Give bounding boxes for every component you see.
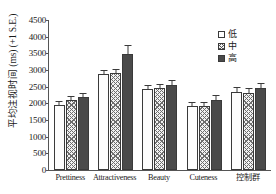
error-bar-cap [213,95,220,96]
error-bar [59,101,60,105]
bar-group [97,20,135,170]
error-bar-cap [156,84,163,85]
error-bar [171,80,172,85]
legend-item[interactable]: 中 [218,40,264,52]
bar[interactable] [122,54,133,170]
x-axis-tick-label: 控制群 [226,173,270,191]
legend: 低中高 [218,28,264,64]
y-axis-tick-label: 3500 [12,49,46,58]
error-bar-cap [56,101,63,102]
error-bar-cap [80,93,87,94]
error-bar-cap [233,87,240,88]
y-axis-tick-mark [46,70,49,71]
error-bar-cap [100,70,107,71]
legend-swatch-icon [218,31,225,38]
bar-column [166,20,177,170]
error-bar [147,85,148,89]
error-bar-cap [257,83,264,84]
x-axis-tick-labels: PrettinessAttractivenessBeautyCuteness控制… [48,173,270,191]
error-bar [204,102,205,106]
legend-item-label: 低 [228,29,237,39]
error-bar-cap [245,88,252,89]
bar-column [78,20,89,170]
error-bar [127,45,128,54]
legend-item-label: 中 [228,41,237,51]
y-axis-tick-label: 4500 [12,16,46,25]
error-bar-cap [144,85,151,86]
error-bar-cap [189,102,196,103]
error-bar-cap [124,45,131,46]
bar[interactable] [154,88,165,170]
y-axis-tick-mark [46,37,49,38]
y-axis-tick-mark [46,20,49,21]
y-axis-tick-mark [46,87,49,88]
y-axis-tick-mark [46,153,49,154]
error-bar [236,87,237,91]
bar[interactable] [199,106,210,170]
error-bar [103,70,104,74]
y-axis-tick-label: 1000 [12,133,46,142]
legend-swatch-icon [218,43,225,50]
y-axis-tick-label: 0 [12,166,46,175]
bar[interactable] [211,100,222,170]
y-axis-tick-mark [46,53,49,54]
bar[interactable] [54,105,65,170]
bar[interactable] [142,89,153,170]
x-axis-tick-label: Cuteness [181,173,225,191]
bar-column [187,20,198,170]
bar[interactable] [98,74,109,170]
x-axis-tick-label: Prettiness [48,173,92,191]
bar[interactable] [187,106,198,170]
bar-chart: 平均注视时间 (ms) (+1 S.E.) 450040003500300025… [0,0,276,194]
bar[interactable] [243,93,254,170]
bar-column [122,20,133,170]
error-bar [159,84,160,88]
bar-column [110,20,121,170]
error-bar-cap [112,69,119,70]
y-axis-tick-mark [46,103,49,104]
bar[interactable] [166,85,177,170]
error-bar-cap [201,102,208,103]
legend-swatch-icon [218,55,225,62]
bar[interactable] [255,88,266,170]
error-bar-cap [68,96,75,97]
y-axis-tick-mark [46,137,49,138]
y-axis-tick-label: 4000 [12,33,46,42]
error-bar [71,96,72,100]
y-axis-tick-label: 2500 [12,83,46,92]
legend-item[interactable]: 低 [218,28,264,40]
bar[interactable] [66,100,77,170]
bar-group [141,20,179,170]
y-axis-tick-label: 2000 [12,99,46,108]
legend-item[interactable]: 高 [218,52,264,64]
error-bar [260,83,261,88]
bar[interactable] [231,92,242,170]
y-axis-tick-label: 500 [12,149,46,158]
bar-column [54,20,65,170]
y-axis-tick-label: 3000 [12,66,46,75]
bar-column [154,20,165,170]
legend-item-label: 高 [228,53,237,63]
error-bar-cap [168,80,175,81]
bar[interactable] [110,73,121,170]
bar[interactable] [78,97,89,170]
y-axis-tick-mark [46,170,49,171]
x-axis-tick-label: Beauty [137,173,181,191]
bar-column [66,20,77,170]
y-axis-tick-labels: 450040003500300025002000150010005000 [12,12,46,172]
bar-column [142,20,153,170]
bar-column [199,20,210,170]
bar-column [98,20,109,170]
error-bar [115,69,116,74]
y-axis-tick-label: 1500 [12,116,46,125]
bar-group [52,20,90,170]
x-axis-tick-label: Attractiveness [93,173,137,191]
error-bar [192,102,193,106]
error-bar [83,93,84,97]
error-bar [248,88,249,92]
error-bar [216,95,217,100]
y-axis-tick-mark [46,120,49,121]
